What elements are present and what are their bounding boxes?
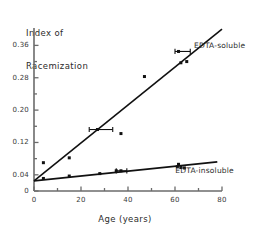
y-axis-tick-label: 0.20 (3, 106, 29, 114)
x-axis-tick-label: 20 (69, 196, 93, 204)
series-annotation-1: EDTA-soluble (194, 41, 245, 50)
data-point-marker (68, 175, 71, 178)
x-axis-tick-label: 80 (210, 196, 234, 204)
data-point-marker (179, 61, 182, 64)
data-point-marker (68, 156, 71, 159)
y-axis-tick-label: 0.12 (3, 138, 29, 146)
y-axis-tick-label: 0.36 (3, 41, 29, 49)
data-point-marker (119, 169, 122, 172)
x-axis-tick-label: 40 (116, 196, 140, 204)
series-layer (34, 29, 222, 181)
series-annotation-2: EDTA-insoluble (175, 166, 234, 175)
y-axis-tick-label: 0 (3, 187, 29, 195)
data-point-marker (143, 75, 146, 78)
x-axis-tick-label: 60 (163, 196, 187, 204)
data-point-marker (177, 50, 180, 53)
fit-line-1 (34, 29, 222, 181)
data-point-marker (96, 128, 99, 131)
x-axis-tick-label: 0 (22, 196, 46, 204)
data-point-marker (98, 172, 101, 175)
data-point-marker (42, 161, 45, 164)
y-axis-tick-label: 0.04 (3, 171, 29, 179)
data-point-marker (119, 132, 122, 135)
data-point-marker (185, 60, 188, 63)
y-axis-tick-label: 0.28 (3, 74, 29, 82)
data-point-marker (42, 177, 45, 180)
